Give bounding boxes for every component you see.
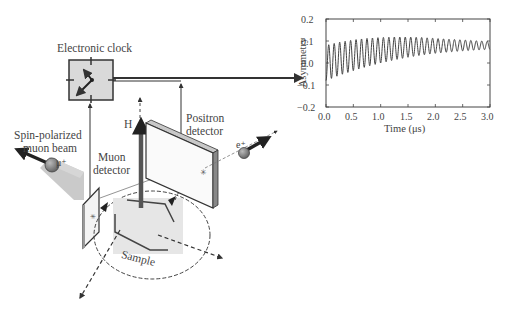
y-tick: −0.2 bbox=[297, 101, 315, 114]
clock-to-plot-wire bbox=[113, 78, 302, 81]
x-tick: 0.5 bbox=[345, 110, 358, 123]
muon-detector-label-line2: detector bbox=[93, 164, 130, 177]
muon-particle-label: μ⁺ bbox=[56, 156, 67, 169]
x-tick: 3.0 bbox=[481, 110, 494, 123]
positron-detector-label-line2: detector bbox=[186, 125, 223, 138]
muon-detector-plate: ✳ bbox=[83, 188, 99, 248]
clock-icon bbox=[66, 57, 116, 103]
positron-detector-label-line1: Positron bbox=[186, 112, 224, 125]
svg-text:✳: ✳ bbox=[200, 168, 207, 177]
x-axis-label: Time (μs) bbox=[384, 122, 425, 135]
x-tick: 2.0 bbox=[427, 110, 440, 123]
asymmetry-plot bbox=[326, 19, 490, 107]
svg-text:✳: ✳ bbox=[90, 213, 96, 221]
x-tick: 1.0 bbox=[372, 110, 385, 123]
positron-particle-label: e⁺ bbox=[236, 138, 246, 151]
y-tick: 0.2 bbox=[301, 13, 314, 26]
x-tick: 0.0 bbox=[318, 110, 331, 123]
field-label: H bbox=[124, 118, 132, 131]
y-axis-label: Asymmetry bbox=[296, 38, 309, 88]
x-tick: 2.5 bbox=[454, 110, 467, 123]
beam-label-line2: muon beam bbox=[23, 142, 77, 155]
muon-detector-label-line1: Muon bbox=[98, 151, 125, 164]
clock-label: Electronic clock bbox=[57, 42, 132, 55]
beam-label-line1: Spin-polarized bbox=[14, 129, 82, 142]
